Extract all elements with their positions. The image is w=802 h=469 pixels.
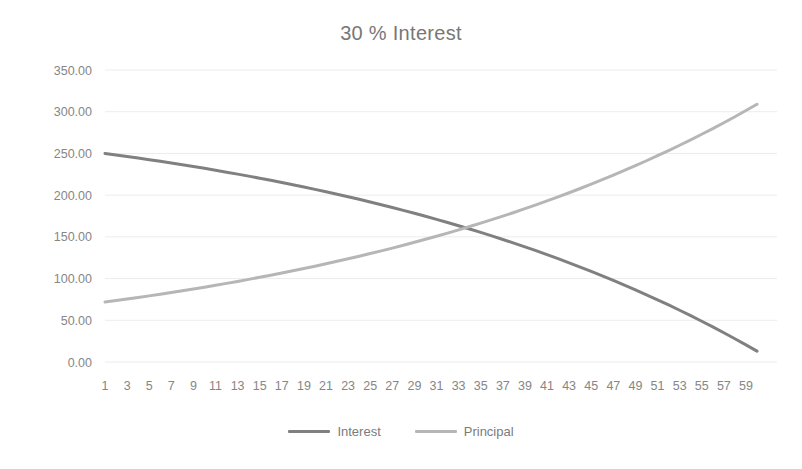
x-axis-tick-label: 23 (341, 379, 355, 393)
chart-container: 30 % Interest 0.0050.00100.00150.00200.0… (0, 0, 802, 469)
x-axis-tick-label: 29 (407, 379, 421, 393)
x-axis-tick-label: 59 (739, 379, 753, 393)
legend-swatch-principal (415, 430, 457, 433)
x-axis-tick-label: 55 (695, 379, 709, 393)
y-axis-tick-label: 250.00 (54, 147, 92, 161)
x-axis-tick-label: 57 (717, 379, 731, 393)
x-axis-tick-label: 7 (168, 379, 175, 393)
x-axis-tick-label: 27 (385, 379, 399, 393)
x-axis-tick-label: 33 (452, 379, 466, 393)
x-axis-tick-label: 21 (319, 379, 333, 393)
legend-item-principal[interactable]: Principal (415, 424, 514, 439)
y-axis-tick-label: 50.00 (61, 314, 92, 328)
gridlines (105, 70, 777, 362)
series-line-interest (105, 153, 757, 351)
x-axis-tick-label: 13 (231, 379, 245, 393)
x-axis-tick-labels: 1357911131517192123252729313335373941434… (102, 379, 753, 393)
x-axis-tick-label: 47 (606, 379, 620, 393)
series-line-principal (105, 104, 757, 302)
x-axis-tick-label: 45 (584, 379, 598, 393)
x-axis-tick-label: 25 (363, 379, 377, 393)
x-axis-tick-label: 35 (474, 379, 488, 393)
y-axis-tick-label: 200.00 (54, 189, 92, 203)
legend-swatch-interest (288, 430, 330, 433)
y-axis-tick-label: 150.00 (54, 230, 92, 244)
x-axis-tick-label: 41 (540, 379, 554, 393)
x-axis-tick-label: 11 (209, 379, 222, 393)
x-axis-tick-label: 19 (297, 379, 311, 393)
y-axis-tick-labels: 0.0050.00100.00150.00200.00250.00300.003… (54, 64, 92, 370)
legend-label-principal: Principal (464, 424, 514, 439)
x-axis-tick-label: 15 (253, 379, 267, 393)
chart-legend: Interest Principal (0, 424, 802, 439)
legend-item-interest[interactable]: Interest (288, 424, 380, 439)
y-axis-tick-label: 0.00 (68, 356, 92, 370)
x-axis-tick-label: 53 (673, 379, 687, 393)
x-axis-tick-label: 43 (562, 379, 576, 393)
x-axis-tick-label: 31 (430, 379, 444, 393)
x-axis-tick-label: 49 (628, 379, 642, 393)
y-axis-tick-label: 350.00 (54, 64, 92, 78)
x-axis-tick-label: 17 (275, 379, 289, 393)
x-axis-tick-label: 37 (496, 379, 510, 393)
y-axis-tick-label: 300.00 (54, 105, 92, 119)
y-axis-tick-label: 100.00 (54, 272, 92, 286)
x-axis-tick-label: 39 (518, 379, 532, 393)
x-axis-tick-label: 3 (124, 379, 131, 393)
x-axis-tick-label: 9 (190, 379, 197, 393)
chart-plot-area: 0.0050.00100.00150.00200.00250.00300.003… (0, 0, 802, 469)
data-series-lines (105, 104, 757, 351)
x-axis-tick-label: 51 (651, 379, 665, 393)
x-axis-tick-label: 1 (102, 379, 109, 393)
x-axis-tick-label: 5 (146, 379, 153, 393)
legend-label-interest: Interest (337, 424, 380, 439)
